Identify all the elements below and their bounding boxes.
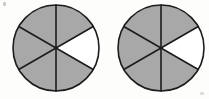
circle-model-right [118, 5, 204, 91]
scan-artifact-speck [3, 2, 6, 6]
fraction-circles-diagram [0, 0, 209, 99]
fraction-circles-figure [0, 0, 209, 99]
circle-model-left [13, 5, 99, 91]
scan-artifact-speck [200, 92, 204, 95]
